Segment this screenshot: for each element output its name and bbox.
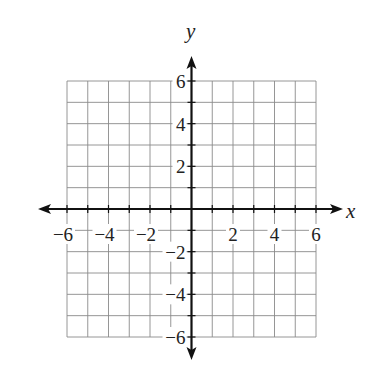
- x-tick-label: −6: [53, 224, 73, 245]
- x-tick-label: −2: [136, 224, 156, 245]
- x-tick-label: 6: [311, 224, 321, 245]
- x-tick-label: 2: [228, 224, 238, 245]
- x-tick-label: 4: [270, 224, 280, 245]
- x-tick-label: −4: [94, 224, 115, 245]
- y-tick-label: 4: [176, 114, 186, 135]
- y-axis-label: y: [184, 19, 196, 43]
- y-tick-label: −2: [165, 242, 185, 263]
- coordinate-plane: −6−4−2246642−2−4−6 x y: [0, 0, 389, 371]
- x-axis-label: x: [345, 199, 356, 223]
- y-tick-label: −4: [165, 284, 186, 305]
- y-tick-label: 6: [176, 71, 186, 92]
- y-tick-label: −6: [165, 327, 185, 348]
- y-tick-label: 2: [176, 156, 186, 177]
